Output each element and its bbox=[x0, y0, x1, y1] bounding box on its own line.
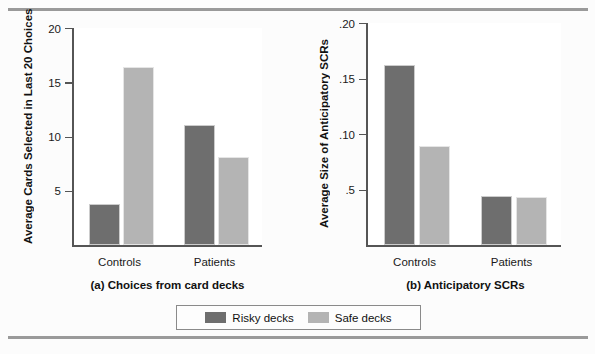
x-axis-line-b bbox=[366, 245, 561, 247]
panel-b: Average Size of Anticipatory SCRs .5.10.… bbox=[300, 0, 595, 354]
x-axis-line-a bbox=[72, 245, 262, 247]
plot-area-b: .5.10.15.20 bbox=[366, 23, 561, 245]
panel-caption-a: (a) Choices from card decks bbox=[55, 279, 280, 291]
legend-label-safe: Safe decks bbox=[335, 312, 392, 324]
y-tick-label-a-1: 10 bbox=[48, 131, 61, 143]
x-group-label-a-1: Patients bbox=[167, 256, 262, 268]
bar-a-controls-risky bbox=[89, 204, 120, 245]
panel-a: Average Cards Selected in Last 20 Choice… bbox=[0, 0, 300, 354]
x-group-label-b-0: Controls bbox=[366, 256, 463, 268]
y-tick-b-1: .10 bbox=[359, 134, 366, 135]
y-tick-label-b-1: .10 bbox=[339, 129, 355, 141]
plot-area-a: 5101520 bbox=[72, 28, 262, 245]
legend: Risky decks Safe decks bbox=[176, 305, 421, 330]
y-tick-label-b-0: .5 bbox=[345, 184, 355, 196]
legend-swatch-safe bbox=[308, 312, 329, 323]
bar-a-patients-safe bbox=[218, 157, 249, 245]
y-tick-label-a-3: 20 bbox=[48, 23, 61, 35]
x-group-label-b-1: Patients bbox=[463, 256, 560, 268]
bar-b-patients-safe bbox=[516, 197, 547, 245]
bar-b-controls-safe bbox=[419, 146, 450, 245]
y-axis-title-a: Average Cards Selected in Last 20 Choice… bbox=[22, 30, 34, 244]
legend-entry-risky: Risky decks bbox=[205, 312, 293, 324]
y-axis-line-a bbox=[72, 28, 74, 245]
y-tick-label-b-2: .15 bbox=[339, 73, 355, 85]
y-tick-b-0: .5 bbox=[359, 190, 366, 191]
y-tick-label-a-2: 15 bbox=[48, 77, 61, 89]
y-tick-a-2: 15 bbox=[65, 82, 72, 83]
y-tick-label-a-0: 5 bbox=[55, 185, 61, 197]
y-tick-a-3: 20 bbox=[65, 28, 72, 29]
y-tick-a-0: 5 bbox=[65, 191, 72, 192]
y-tick-label-b-3: .20 bbox=[339, 18, 355, 30]
bar-b-patients-risky bbox=[481, 196, 512, 245]
y-tick-a-1: 10 bbox=[65, 137, 72, 138]
bar-b-controls-risky bbox=[384, 65, 415, 245]
y-axis-line-b bbox=[366, 23, 368, 245]
x-group-label-a-0: Controls bbox=[72, 256, 167, 268]
bar-a-patients-risky bbox=[184, 125, 215, 245]
y-tick-b-2: .15 bbox=[359, 79, 366, 80]
bar-a-controls-safe bbox=[123, 67, 154, 245]
figure-canvas: Average Cards Selected in Last 20 Choice… bbox=[0, 0, 595, 354]
y-axis-title-b: Average Size of Anticipatory SCRs bbox=[318, 25, 330, 243]
panel-caption-b: (b) Anticipatory SCRs bbox=[353, 279, 578, 291]
y-tick-b-3: .20 bbox=[359, 23, 366, 24]
legend-label-risky: Risky decks bbox=[232, 312, 293, 324]
legend-entry-safe: Safe decks bbox=[308, 312, 392, 324]
legend-swatch-risky bbox=[205, 312, 226, 323]
